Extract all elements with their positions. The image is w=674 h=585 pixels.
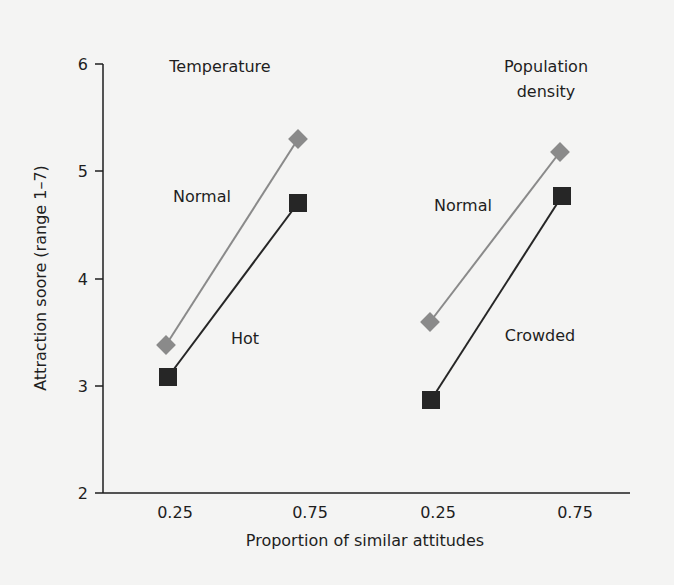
series-label-normal: Normal xyxy=(434,196,492,215)
series-line xyxy=(168,203,298,377)
square-marker xyxy=(159,368,177,386)
series-population-crowded: Crowded xyxy=(422,187,575,409)
x-tick-label-p2-075: 0.75 xyxy=(557,503,593,522)
y-tick-label-2: 2 xyxy=(78,484,88,503)
series-label-crowded: Crowded xyxy=(505,326,575,345)
square-marker xyxy=(422,391,440,409)
panel-temperature: Temperature Normal Hot xyxy=(156,57,308,386)
panel-population-density: Population density Normal Crowded xyxy=(420,57,588,409)
series-label-hot: Hot xyxy=(231,329,259,348)
series-label-normal: Normal xyxy=(173,187,231,206)
x-tick-label-p1-075: 0.75 xyxy=(292,503,328,522)
panel-title-temperature: Temperature xyxy=(168,57,270,76)
y-tick-label-4: 4 xyxy=(78,270,88,289)
y-tick-label-6: 6 xyxy=(78,55,88,74)
diamond-marker xyxy=(156,335,176,355)
line-chart: 6 5 4 3 2 0.25 0.75 0.25 0.75 Proportion… xyxy=(0,0,674,585)
diamond-marker xyxy=(288,129,308,149)
diamond-marker xyxy=(420,312,440,332)
square-marker xyxy=(289,194,307,212)
x-tick-labels: 0.25 0.75 0.25 0.75 xyxy=(157,503,593,522)
x-tick-label-p1-025: 0.25 xyxy=(157,503,193,522)
x-axis-title: Proportion of similar attitudes xyxy=(246,531,484,550)
square-marker xyxy=(553,187,571,205)
panel-title-density: density xyxy=(517,82,576,101)
series-line xyxy=(430,152,560,322)
y-tick-label-3: 3 xyxy=(78,377,88,396)
axes xyxy=(95,64,630,493)
series-line xyxy=(431,196,562,400)
y-tick-label-5: 5 xyxy=(78,162,88,181)
series-temperature-normal: Normal xyxy=(156,129,308,355)
diamond-marker xyxy=(550,142,570,162)
y-tick-labels: 6 5 4 3 2 xyxy=(78,55,88,503)
y-axis-title: Attraction soore (range 1–7) xyxy=(31,165,50,391)
series-temperature-hot: Hot xyxy=(159,194,307,386)
series-population-normal: Normal xyxy=(420,142,570,332)
series-line xyxy=(166,139,298,345)
panel-title-population: Population xyxy=(504,57,588,76)
x-tick-label-p2-025: 0.25 xyxy=(420,503,456,522)
